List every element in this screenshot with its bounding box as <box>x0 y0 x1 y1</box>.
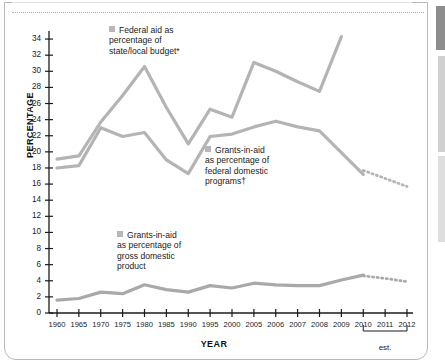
legend-swatch-icon <box>205 146 211 152</box>
y-axis-tick-label: 8 <box>23 244 41 253</box>
legend-federal-domestic-programs: Grants-in-aid as percentage of federal d… <box>205 145 320 187</box>
y-axis-tick-label: 2 <box>23 292 41 301</box>
y-axis-title: PERCENTAGE <box>25 79 35 171</box>
page-edge-tab-mid <box>438 56 445 152</box>
y-axis-tick-label: 34 <box>23 34 41 43</box>
estimate-label: est. <box>370 343 400 352</box>
legend-domestic-line1: Grants-in-aid <box>215 145 265 155</box>
y-axis-tick-label: 10 <box>23 227 41 236</box>
y-axis-tick-label: 16 <box>23 179 41 188</box>
legend-gdp-line1: Grants-in-aid <box>127 230 177 240</box>
legend-swatch-icon <box>117 231 123 237</box>
y-axis-tick-label: 12 <box>23 211 41 220</box>
legend-domestic-line3: federal domestic <box>205 166 320 176</box>
legend-gdp-line4: product <box>117 261 227 271</box>
page-edge-tab-light <box>438 156 445 242</box>
x-axis-tick-label: 2012 <box>394 320 420 329</box>
line-chart: 0246810121416182022242628303234 19601965… <box>4 2 428 360</box>
legend-gdp-line3: gross domestic <box>117 251 227 261</box>
y-axis-tick-label: 14 <box>23 195 41 204</box>
x-axis-title: YEAR <box>154 339 274 349</box>
page-edge-tab-dark <box>436 6 445 50</box>
legend-federal-line3: state/local budget* <box>109 46 219 56</box>
legend-swatch-icon <box>109 26 115 32</box>
series-line-2 <box>57 275 363 300</box>
y-axis-tick-label: 6 <box>23 260 41 269</box>
legend-gdp-line2: as percentage of <box>117 240 227 250</box>
series-estimate-line-1 <box>363 170 407 186</box>
legend-domestic-line2: as percentage of <box>205 155 320 165</box>
legend-federal-line1: Federal aid as <box>119 25 173 35</box>
legend-gross-domestic-product: Grants-in-aid as percentage of gross dom… <box>117 230 227 272</box>
legend-federal-line2: percentage of <box>109 35 219 45</box>
y-axis-tick-label: 32 <box>23 50 41 59</box>
y-axis-tick-label: 4 <box>23 276 41 285</box>
y-axis-tick-label: 30 <box>23 66 41 75</box>
series-estimate-line-2 <box>363 276 407 282</box>
legend-domestic-line4: programs† <box>205 176 320 186</box>
legend-federal-aid: Federal aid as percentage of state/local… <box>109 25 219 56</box>
y-axis-tick-label: 0 <box>23 308 41 317</box>
